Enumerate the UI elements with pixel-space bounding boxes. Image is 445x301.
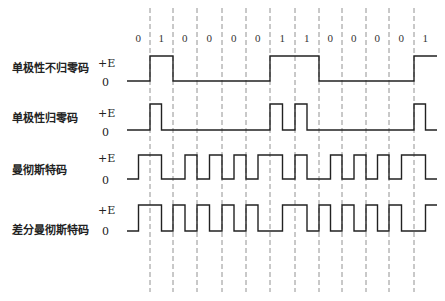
manchester-zero-label: 0	[102, 174, 109, 187]
bit-label: 0	[255, 32, 261, 44]
row-label-diff-manchester: 差分曼彻斯特码	[12, 223, 89, 237]
encoding-diagram: 0100001100001 单极性不归零码 +E 0 单极性归零码 +E 0 曼…	[0, 0, 445, 301]
bit-label: 0	[207, 32, 213, 44]
diff-manchester-zero-label: 0	[102, 225, 109, 238]
nrz-high-label: +E	[98, 57, 115, 70]
bit-label: 0	[328, 32, 334, 44]
bit-boundary-lines	[150, 8, 414, 292]
bit-label: 0	[375, 32, 381, 44]
diff-manchester-high-label: +E	[98, 204, 115, 217]
row-label-manchester: 曼彻斯特码	[12, 163, 67, 177]
rz-waveform	[127, 104, 437, 130]
row-label-nrz: 单极性不归零码	[12, 61, 89, 75]
row-label-rz: 单极性归零码	[12, 111, 78, 125]
bit-label: 1	[159, 32, 165, 44]
nrz-waveform	[127, 56, 437, 81]
bit-label: 0	[231, 32, 237, 44]
bit-label: 0	[182, 32, 188, 44]
waveform-diagram: 0100001100001 单极性不归零码 +E 0 单极性归零码 +E 0 曼…	[0, 0, 445, 301]
bit-label: 1	[280, 32, 286, 44]
nrz-zero-label: 0	[102, 76, 109, 89]
rz-zero-label: 0	[102, 126, 109, 139]
rz-high-label: +E	[98, 107, 115, 120]
bit-label: 0	[136, 32, 142, 44]
manchester-high-label: +E	[98, 152, 115, 165]
diff-manchester-waveform	[127, 205, 437, 231]
bit-label: 1	[304, 32, 310, 44]
bit-label: 0	[351, 32, 357, 44]
bit-label: 1	[423, 32, 429, 44]
manchester-waveform	[127, 155, 437, 179]
bit-label: 0	[399, 32, 405, 44]
bit-sequence-labels: 0100001100001	[136, 32, 429, 44]
